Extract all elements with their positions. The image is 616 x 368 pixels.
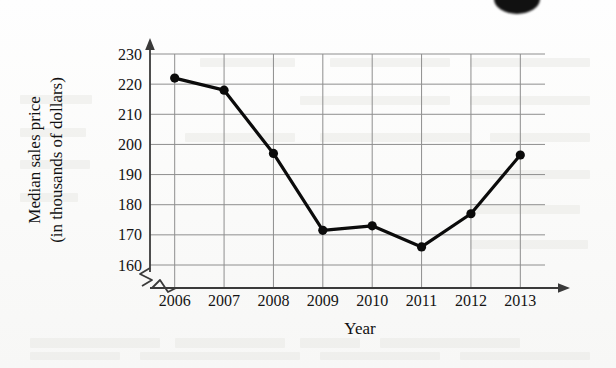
x-tick-labels: 20062007200820092010201120122013 bbox=[159, 292, 537, 309]
line-chart-figure: 230220210200190180170160 200620072008200… bbox=[0, 0, 616, 368]
x-axis-title: Year bbox=[344, 319, 376, 338]
data-point-2010 bbox=[368, 221, 377, 230]
x-tick-label-2007: 2007 bbox=[208, 292, 240, 309]
x-tick-label-2010: 2010 bbox=[356, 292, 388, 309]
y-axis-arrowhead bbox=[145, 38, 155, 50]
chart-canvas: 230220210200190180170160 200620072008200… bbox=[0, 0, 616, 368]
median-sales-price-line bbox=[175, 78, 521, 247]
y-axis-title-line-1: Median sales price bbox=[25, 96, 44, 223]
x-tick-label-2008: 2008 bbox=[257, 292, 289, 309]
data-point-2008 bbox=[269, 149, 278, 158]
data-point-2013 bbox=[516, 150, 525, 159]
y-tick-labels: 230220210200190180170160 bbox=[118, 46, 142, 274]
x-tick-label-2011: 2011 bbox=[406, 292, 437, 309]
data-point-2007 bbox=[219, 86, 228, 95]
data-point-2006 bbox=[170, 74, 179, 83]
y-tick-label-160: 160 bbox=[118, 257, 142, 274]
y-tick-label-210: 210 bbox=[118, 106, 142, 123]
x-tick-label-2012: 2012 bbox=[455, 292, 487, 309]
x-axis-break-mark bbox=[152, 280, 176, 292]
y-tick-label-170: 170 bbox=[118, 226, 142, 243]
y-axis bbox=[145, 38, 155, 272]
y-tick-label-220: 220 bbox=[118, 76, 142, 93]
x-tick-label-2013: 2013 bbox=[504, 292, 536, 309]
data-point-2011 bbox=[417, 242, 426, 251]
y-tick-label-230: 230 bbox=[118, 46, 142, 63]
data-point-2009 bbox=[318, 226, 327, 235]
y-tick-label-180: 180 bbox=[118, 196, 142, 213]
data-point-markers bbox=[170, 74, 525, 252]
x-tick-label-2006: 2006 bbox=[159, 292, 191, 309]
data-point-2012 bbox=[466, 209, 475, 218]
y-tick-label-190: 190 bbox=[118, 166, 142, 183]
y-axis-title-line-2: (in thousands of dollars) bbox=[47, 77, 66, 243]
x-axis-arrowhead bbox=[558, 283, 570, 293]
y-tick-label-200: 200 bbox=[118, 136, 142, 153]
x-tick-label-2009: 2009 bbox=[307, 292, 339, 309]
